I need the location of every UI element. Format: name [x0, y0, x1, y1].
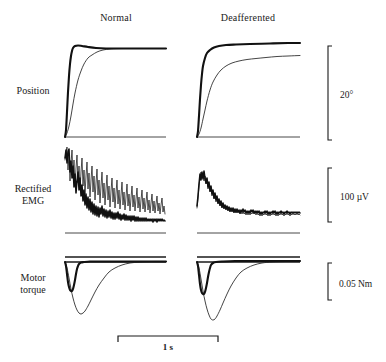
trace-position-normal-thin: [65, 48, 166, 137]
scale-bar-position-scale: [328, 46, 332, 140]
panel-position-deafferented: [197, 43, 300, 137]
trace-torque-deafferented-thin: [197, 261, 300, 320]
scale-bar-bracket-torque-scale: [328, 263, 332, 300]
time-bar-bracket: [118, 336, 218, 342]
panel-emg-deafferented: [197, 171, 300, 233]
trace-position-normal-thick: [65, 46, 166, 138]
trace-position-deafferented-thin: [197, 56, 300, 138]
figure-root: Normal Deafferented Position Rectified E…: [0, 0, 386, 362]
scale-bar-emg-scale: [328, 168, 332, 222]
panel-torque-normal: [65, 257, 166, 314]
scale-bar-bracket-emg-scale: [328, 168, 332, 222]
scale-bar-bracket-position-scale: [328, 46, 332, 140]
trace-position-deafferented-thick: [197, 43, 300, 137]
plot-canvas: [0, 0, 386, 362]
panel-position-normal: [65, 46, 166, 138]
trace-torque-deafferented-thick: [197, 261, 300, 294]
scale-bar-torque-scale: [328, 263, 332, 300]
trace-emg-deafferented-thick: [197, 171, 300, 214]
panel-emg-normal: [65, 147, 166, 233]
panel-torque-deafferented: [197, 257, 300, 320]
time-bar: [118, 336, 218, 342]
trace-torque-normal-thick: [65, 261, 166, 291]
trace-torque-normal-thin: [65, 261, 166, 314]
